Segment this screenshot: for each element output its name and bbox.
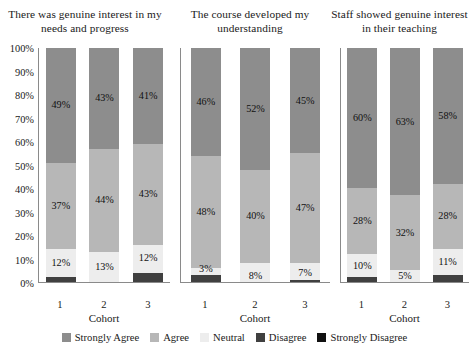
- bar-segment-label: 43%: [95, 93, 114, 103]
- legend-swatch: [256, 333, 265, 342]
- legend-swatch: [200, 333, 209, 342]
- stacked-bar[interactable]: 43%44%13%: [89, 48, 119, 282]
- bar-segment-label: 41%: [139, 91, 158, 101]
- bar-segment-label: 44%: [95, 195, 114, 205]
- plot-area: 60%28%10%63%32%5%58%28%11%: [330, 48, 469, 296]
- plot-area: 46%48%3%52%40%8%45%47%7%: [170, 48, 330, 296]
- bar-segment[interactable]: [191, 275, 221, 282]
- bar-group: 60%28%10%63%32%5%58%28%11%: [341, 48, 469, 282]
- x-axis-tick-label: 2: [89, 299, 119, 310]
- x-axis-tick-label: 3: [433, 299, 463, 310]
- bar-segment[interactable]: 43%: [133, 144, 163, 245]
- bar-segment-label: 28%: [438, 211, 457, 221]
- bar-segment[interactable]: 13%: [89, 252, 119, 282]
- bar-segment[interactable]: 46%: [191, 48, 221, 156]
- chart-legend: Strongly AgreeAgreeNeutralDisagreeStrong…: [0, 332, 469, 343]
- y-axis-tick-label: 50%: [15, 160, 34, 171]
- bar-segment[interactable]: 28%: [433, 184, 463, 250]
- bar-segment-label: 7%: [298, 268, 312, 278]
- bar-segment-label: 32%: [396, 228, 415, 238]
- legend-label: Disagree: [269, 332, 307, 343]
- bar-segment[interactable]: 5%: [390, 270, 420, 282]
- bar-segment[interactable]: 12%: [46, 249, 76, 277]
- stacked-bar[interactable]: 63%32%5%: [390, 48, 420, 282]
- x-axis-tick-label: 1: [190, 299, 220, 310]
- legend-item[interactable]: Strongly Agree: [62, 332, 139, 343]
- bar-segment[interactable]: 10%: [347, 254, 377, 277]
- stacked-bar[interactable]: 45%47%7%: [290, 48, 320, 282]
- bar-segment[interactable]: [46, 277, 76, 282]
- legend-item[interactable]: Neutral: [200, 332, 245, 343]
- bar-segment[interactable]: 28%: [347, 188, 377, 254]
- y-axis-tick-label: 20%: [15, 231, 34, 242]
- bar-segment[interactable]: 48%: [191, 156, 221, 268]
- bar-segment[interactable]: 60%: [347, 48, 377, 188]
- bar-segment[interactable]: [433, 275, 463, 282]
- x-axis: 123Cohort: [0, 296, 170, 330]
- bar-segment[interactable]: 58%: [433, 48, 463, 184]
- chart-panel: Staff showed genuine interest in their t…: [330, 0, 469, 330]
- bar-segment[interactable]: 37%: [46, 163, 76, 250]
- y-axis-tick-label: 0%: [20, 278, 34, 289]
- legend-item[interactable]: Strongly Disagree: [317, 332, 407, 343]
- bar-segment-label: 12%: [139, 253, 158, 263]
- legend-label: Neutral: [213, 332, 245, 343]
- stacked-bar[interactable]: 52%40%8%: [240, 48, 270, 282]
- bar-segment[interactable]: 41%: [133, 48, 163, 144]
- legend-item[interactable]: Agree: [150, 332, 189, 343]
- bar-segment-label: 58%: [438, 111, 457, 121]
- stacked-bar[interactable]: 60%28%10%: [347, 48, 377, 282]
- stacked-bar[interactable]: 41%43%12%: [133, 48, 163, 282]
- bar-segment-label: 13%: [95, 262, 114, 272]
- y-axis-tick-label: 80%: [15, 90, 34, 101]
- x-axis: 123Cohort: [330, 296, 469, 330]
- x-axis-tick-label: 1: [347, 299, 377, 310]
- stacked-bar[interactable]: 58%28%11%: [433, 48, 463, 282]
- bar-segment-label: 28%: [353, 216, 372, 226]
- bar-segment[interactable]: 45%: [290, 48, 320, 153]
- bar-segment[interactable]: 44%: [89, 149, 119, 252]
- bar-segment-label: 63%: [396, 117, 415, 127]
- y-axis-tick-label: 100%: [10, 43, 34, 54]
- stacked-bar-chart: There was genuine interest in my needs a…: [0, 0, 469, 359]
- bar-segment[interactable]: 7%: [290, 263, 320, 279]
- bar-segment[interactable]: 3%: [191, 268, 221, 275]
- y-axis-tick-label: 60%: [15, 137, 34, 148]
- bar-segment[interactable]: 63%: [390, 48, 420, 195]
- bar-segment[interactable]: 32%: [390, 195, 420, 270]
- bar-segment-label: 49%: [51, 100, 70, 110]
- bar-segment-label: 3%: [199, 264, 213, 274]
- bar-segment[interactable]: [290, 280, 320, 282]
- panel-title: Staff showed genuine interest in their t…: [330, 0, 469, 48]
- bar-segment[interactable]: 8%: [240, 263, 270, 282]
- y-axis: [170, 48, 180, 283]
- bar-segment-label: 60%: [353, 113, 372, 123]
- bar-segment[interactable]: [133, 273, 163, 282]
- legend-item[interactable]: Disagree: [256, 332, 307, 343]
- y-axis-tick-label: 30%: [15, 207, 34, 218]
- y-axis-tick-label: 40%: [15, 184, 34, 195]
- bar-segment-label: 45%: [296, 96, 315, 106]
- y-axis: [330, 48, 340, 283]
- bar-segment[interactable]: 40%: [240, 170, 270, 264]
- bar-segment[interactable]: 12%: [133, 245, 163, 273]
- x-axis-tick-label: 2: [240, 299, 270, 310]
- stacked-bar[interactable]: 49%37%12%: [46, 48, 76, 282]
- panel-title: There was genuine interest in my needs a…: [0, 0, 170, 48]
- bar-segment[interactable]: 43%: [89, 48, 119, 149]
- bar-segment[interactable]: 11%: [433, 249, 463, 275]
- bar-segment[interactable]: 47%: [290, 153, 320, 263]
- bar-segment-label: 46%: [196, 97, 215, 107]
- bar-segment[interactable]: 52%: [240, 48, 270, 170]
- legend-label: Strongly Agree: [75, 332, 139, 343]
- bar-segment-label: 40%: [246, 211, 265, 221]
- x-axis-title: Cohort: [180, 310, 330, 324]
- bar-segment-label: 5%: [398, 271, 412, 281]
- bar-segment-label: 12%: [51, 258, 70, 268]
- chart-panel: There was genuine interest in my needs a…: [0, 0, 170, 330]
- bar-segment[interactable]: 49%: [46, 48, 76, 163]
- bar-segment[interactable]: [347, 277, 377, 282]
- plot-canvas: 46%48%3%52%40%8%45%47%7%: [180, 48, 330, 283]
- bar-segment-label: 8%: [249, 271, 263, 281]
- stacked-bar[interactable]: 46%48%3%: [191, 48, 221, 282]
